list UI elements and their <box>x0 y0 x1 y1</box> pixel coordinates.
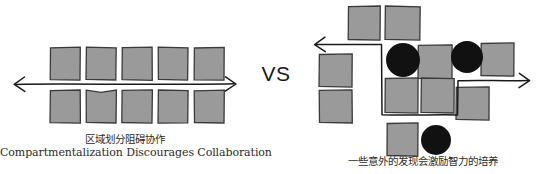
block-square <box>421 78 454 113</box>
comparison-diagram: 区域划分阻碍协作 Compartmentalization Discourage… <box>0 0 545 174</box>
versus-divider: VS <box>252 0 300 174</box>
block-square <box>122 47 152 80</box>
top-row-blocks <box>50 47 224 80</box>
block-square <box>418 45 452 79</box>
block-square <box>122 90 153 123</box>
block-square <box>158 90 188 123</box>
block-square <box>194 90 224 123</box>
block-square <box>385 78 418 113</box>
block-square <box>319 54 352 87</box>
right-diagram-panel: 一些意外的发现会激励智力的培养 <box>300 0 545 174</box>
bottom-row-blocks <box>50 90 224 123</box>
block-square <box>194 47 224 80</box>
block-square <box>385 6 420 40</box>
right-caption-chinese: 一些意外的发现会激励智力的培养 <box>300 155 545 168</box>
block-square <box>50 90 80 123</box>
block-square <box>456 87 489 120</box>
left-diagram-panel: 区域划分阻碍协作 Compartmentalization Discourage… <box>0 0 250 174</box>
block-square <box>86 47 116 80</box>
left-caption-english: Compartmentalization Discourages Collabo… <box>0 146 250 160</box>
black-circle <box>421 125 451 155</box>
block-square <box>481 43 514 76</box>
left-diagram-graphic <box>0 0 250 132</box>
right-diagram-graphic <box>300 0 545 160</box>
block-square <box>319 90 352 123</box>
block-square <box>86 90 116 123</box>
black-circle <box>451 41 483 73</box>
black-circle <box>386 43 420 77</box>
left-caption-chinese: 区域划分阻碍协作 <box>0 133 250 146</box>
block-square <box>50 47 80 80</box>
block-square <box>387 123 418 156</box>
vs-label: VS <box>252 63 300 84</box>
block-square <box>158 47 188 80</box>
block-square <box>348 6 380 40</box>
